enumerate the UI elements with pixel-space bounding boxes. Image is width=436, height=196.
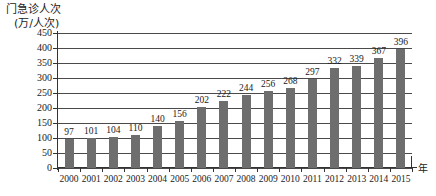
gridline [58, 48, 412, 49]
x-axis-tick-mark [324, 167, 325, 172]
x-axis-tick-mark [213, 167, 214, 172]
x-axis-unit-label: 年 [418, 160, 428, 175]
x-axis-tick-mark [279, 167, 280, 172]
bar[interactable] [175, 121, 184, 168]
x-axis-tick-mark [102, 167, 103, 172]
bar[interactable] [109, 137, 118, 168]
bar-value-label: 396 [388, 38, 414, 48]
bar[interactable] [87, 138, 96, 168]
x-axis-tick-mark [80, 167, 81, 172]
y-axis-tick-label: 300 [6, 73, 52, 83]
y-axis-tick-label: 50 [6, 148, 52, 158]
y-axis-tick-mark [53, 33, 58, 34]
bar[interactable] [308, 79, 317, 168]
bar[interactable] [396, 49, 405, 168]
x-axis-tick-mark [346, 167, 347, 172]
x-axis-tick-mark [257, 167, 258, 172]
bar[interactable] [330, 68, 339, 168]
y-axis-title-text: 门急诊人次 [6, 3, 61, 17]
x-axis-tick-mark [147, 167, 148, 172]
x-axis-tick-mark [235, 167, 236, 172]
y-axis-title: 门急诊人次 (万/人次) [6, 3, 61, 31]
bar[interactable] [242, 95, 251, 168]
y-axis-tick-mark [53, 93, 58, 94]
y-axis-tick-mark [53, 63, 58, 64]
bar[interactable] [153, 126, 162, 168]
bar[interactable] [65, 139, 74, 168]
bar-value-label: 297 [299, 68, 325, 78]
y-axis-tick-label: 250 [6, 88, 52, 98]
bar[interactable] [219, 101, 228, 168]
y-axis-tick-label: 350 [6, 58, 52, 68]
bar-value-label: 339 [344, 55, 370, 65]
x-axis-tick-mark [368, 167, 369, 172]
x-axis-tick-mark [191, 167, 192, 172]
x-axis-tick-mark [301, 167, 302, 172]
x-axis-tick-mark [390, 167, 391, 172]
y-axis-tick-mark [53, 48, 58, 49]
y-axis-tick-label: 400 [6, 43, 52, 53]
x-axis-tick-mark [169, 167, 170, 172]
y-axis-tick-label: 450 [6, 28, 52, 38]
bar[interactable] [286, 88, 295, 168]
y-axis-tick-mark [53, 153, 58, 154]
bar-chart: 门急诊人次 (万/人次) 050100150200250300350400450… [0, 0, 436, 196]
y-axis-tick-label: 0 [6, 163, 52, 173]
x-axis-tick-mark [412, 167, 413, 172]
x-axis-tick-label: 2015 [386, 174, 416, 185]
bar[interactable] [264, 91, 273, 168]
x-axis-tick-mark [58, 167, 59, 172]
bar[interactable] [374, 58, 383, 168]
bar-value-label: 156 [167, 110, 193, 120]
bar-value-label: 268 [277, 77, 303, 87]
gridline [58, 33, 412, 34]
bar-value-label: 110 [122, 124, 148, 134]
bar-value-label: 367 [366, 47, 392, 57]
y-axis-tick-mark [53, 108, 58, 109]
y-axis-tick-label: 100 [6, 133, 52, 143]
plot-area [58, 33, 412, 168]
y-axis-tick-label: 200 [6, 103, 52, 113]
bar[interactable] [352, 66, 361, 168]
bar[interactable] [197, 107, 206, 168]
y-axis-tick-label: 150 [6, 118, 52, 128]
x-axis-tick-mark [124, 167, 125, 172]
y-axis-tick-mark [53, 138, 58, 139]
y-axis-tick-mark [53, 78, 58, 79]
y-axis-tick-mark [53, 123, 58, 124]
bar[interactable] [131, 135, 140, 168]
